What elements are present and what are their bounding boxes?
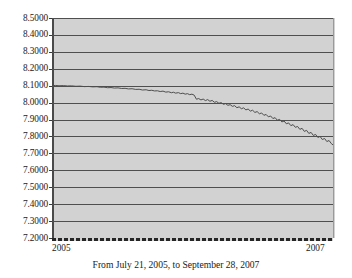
- x-axis: [52, 238, 333, 241]
- figure-caption: From July 21, 2005, to September 28, 200…: [0, 259, 352, 270]
- y-tick-label: 8.3000: [23, 47, 48, 56]
- y-tick-label: 8.4000: [23, 30, 48, 39]
- y-tick-label: 7.5000: [23, 183, 48, 192]
- y-tick-label: 7.3000: [23, 217, 48, 226]
- series-1-line: [52, 85, 333, 144]
- y-tick-label: 8.5000: [23, 14, 48, 23]
- y-tick-label: 7.9000: [23, 115, 48, 124]
- y-tick-label: 7.7000: [23, 149, 48, 158]
- y-tick-label: 8.2000: [23, 64, 48, 73]
- y-tick-label: 7.6000: [23, 166, 48, 175]
- y-tick-label: 8.0000: [23, 98, 48, 107]
- y-tick-label: 8.1000: [23, 81, 48, 90]
- series-line-chart: [52, 18, 333, 238]
- x-tick-label-end: 2007: [306, 243, 325, 253]
- y-tick-label: 7.4000: [23, 200, 48, 209]
- x-tick-label-start: 2005: [52, 243, 71, 253]
- y-tick-label: 7.8000: [23, 132, 48, 141]
- chart-figure: 8.50008.40008.30008.20008.10008.00007.90…: [0, 0, 352, 278]
- y-tick-label: 7.2000: [23, 234, 48, 243]
- plot-right-border: [333, 18, 334, 238]
